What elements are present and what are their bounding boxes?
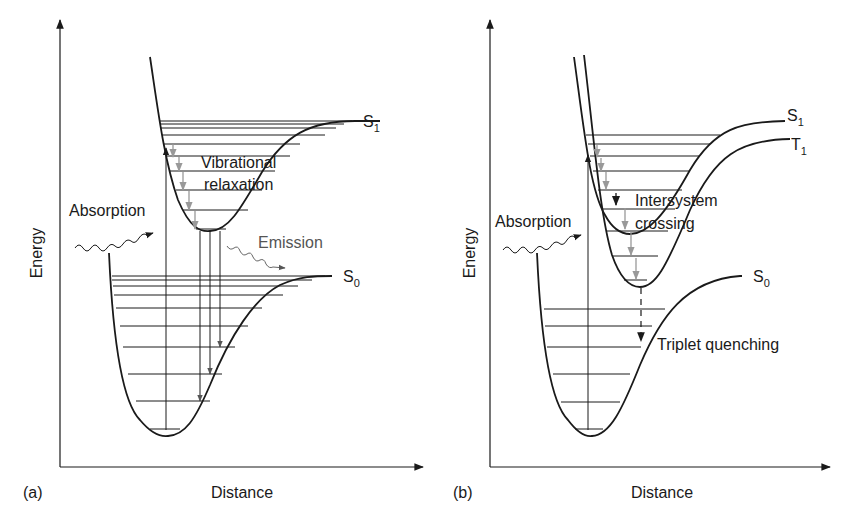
panel-label-a: (a) (23, 484, 43, 501)
vibrational-label-2: relaxation (204, 176, 273, 193)
jablonski-diagram: S1 S0 Absorption Vibrational relaxation … (0, 0, 850, 527)
s0-label: S0 (343, 268, 360, 289)
y-axis-label: Energy (28, 228, 45, 279)
emission-arrows (200, 231, 220, 401)
s0-levels (112, 276, 325, 429)
panel-label-b: (b) (453, 484, 473, 501)
isc-label-2: crossing (635, 215, 695, 232)
s1-levels (160, 121, 352, 229)
x-axis-label: Distance (211, 484, 273, 501)
isc-label-1: Intersystem (635, 192, 718, 209)
s1-label: S1 (363, 113, 380, 134)
absorption-photon-icon (75, 233, 153, 251)
absorption-label: Absorption (495, 213, 572, 230)
triplet-quenching-label: Triplet quenching (657, 336, 779, 353)
t1-label: T1 (791, 136, 807, 157)
absorption-photon-icon (503, 235, 581, 253)
s0-label: S0 (753, 268, 770, 289)
s1-label: S1 (787, 107, 804, 128)
absorption-label: Absorption (69, 202, 146, 219)
emission-label: Emission (258, 234, 323, 251)
x-axis-label: Distance (631, 484, 693, 501)
panel-a: S1 S0 Absorption Vibrational relaxation … (23, 20, 423, 501)
vibrational-relaxation-arrows (173, 144, 195, 229)
panel-b: S1 T1 S0 Absorption Intersystem crossing… (453, 20, 830, 501)
y-axis-label: Energy (461, 228, 478, 279)
vibrational-label-1: Vibrational (201, 154, 276, 171)
